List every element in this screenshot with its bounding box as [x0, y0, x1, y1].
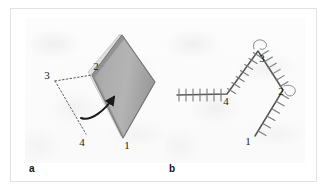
figure-root: 3 2 4 1 [0, 0, 329, 191]
panel-b-vertex-4: 4 [223, 95, 229, 107]
curl-at-vertex-2 [284, 85, 295, 96]
panel-a-vertex-4: 4 [79, 136, 85, 148]
panel-a-vertex-1: 1 [124, 139, 130, 151]
figure-frame: 3 2 4 1 [10, 8, 317, 182]
panel-b-graphic: 4 3 2 1 [165, 18, 305, 163]
panel-a-graphic: 3 2 4 1 [25, 18, 165, 163]
construction-lines [55, 75, 92, 134]
panel-b-caption: b [169, 164, 175, 174]
panel-b-vertex-3: 3 [259, 52, 265, 64]
curl-at-vertex-3 [253, 40, 266, 50]
panel-b-vertex-1: 1 [245, 135, 251, 147]
panel-b-vertex-2: 2 [278, 85, 284, 97]
lozenge-plate [92, 35, 155, 138]
panel-a: 3 2 4 1 [25, 18, 165, 163]
hatch-marks-segment-2-1 [258, 94, 288, 135]
panel-a-caption: a [29, 164, 35, 174]
panel-a-vertex-2: 2 [93, 60, 99, 72]
panel-b: 4 3 2 1 [165, 18, 305, 163]
panel-a-vertex-3: 3 [44, 69, 50, 81]
